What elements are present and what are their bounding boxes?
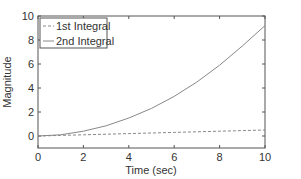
y-tick-label: 6 xyxy=(28,58,34,70)
x-tick-label: 10 xyxy=(259,151,271,163)
line-chart: 0246810 0246810 Time (sec) Magnitude 1st… xyxy=(0,0,301,179)
y-axis-label: Magnitude xyxy=(1,56,13,107)
x-tick-label: 8 xyxy=(217,151,223,163)
legend-label-1st-integral: 1st Integral xyxy=(56,20,110,32)
y-tick-label: 0 xyxy=(28,130,34,142)
x-tick-label: 6 xyxy=(171,151,177,163)
legend-label-2nd-integral: 2nd Integral xyxy=(56,35,114,47)
x-tick-label: 2 xyxy=(80,151,86,163)
legend: 1st Integral 2nd Integral xyxy=(40,18,114,48)
x-axis-label: Time (sec) xyxy=(125,164,177,176)
y-tick-label: 10 xyxy=(22,10,34,22)
y-tick-label: 2 xyxy=(28,106,34,118)
x-tick-label: 0 xyxy=(35,151,41,163)
x-tick-label: 4 xyxy=(126,151,132,163)
y-tick-label: 8 xyxy=(28,34,34,46)
y-tick-label: 4 xyxy=(28,82,34,94)
